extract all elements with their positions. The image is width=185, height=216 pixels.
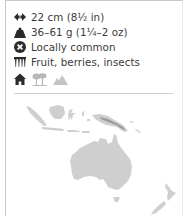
mountain-icon	[53, 73, 68, 85]
species-info-card: 22 cm (8½ in) 36–61 g (1¼–2 oz) Locally …	[5, 0, 183, 216]
length-arrows-icon	[14, 11, 26, 23]
status-icon	[14, 41, 26, 53]
fact-length: 22 cm (8½ in)	[14, 10, 179, 24]
diet-text: Fruit, berries, insects	[31, 56, 140, 68]
fact-diet: Fruit, berries, insects	[14, 55, 179, 69]
divider	[14, 93, 173, 94]
diet-icon	[14, 56, 26, 68]
length-text: 22 cm (8½ in)	[31, 11, 104, 23]
weight-icon	[14, 26, 26, 38]
species-facts: 22 cm (8½ in) 36–61 g (1¼–2 oz) Locally …	[14, 10, 179, 87]
weight-text: 36–61 g (1¼–2 oz)	[31, 26, 128, 38]
habitat-icons	[14, 71, 179, 87]
range-map	[20, 101, 180, 216]
urban-house-icon	[14, 73, 26, 85]
fact-status: Locally common	[14, 40, 179, 54]
fact-weight: 36–61 g (1¼–2 oz)	[14, 25, 179, 39]
woodland-trees-icon	[32, 73, 47, 85]
status-text: Locally common	[31, 41, 115, 53]
